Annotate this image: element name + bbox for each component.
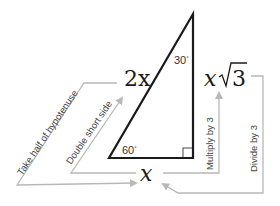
- arrow-label-multiply: Multiply by 3: [204, 117, 215, 170]
- right-angle-marker: [183, 148, 193, 158]
- svg-text:x: x: [204, 66, 217, 91]
- arrow-label-double-short: Double short side: [64, 99, 114, 166]
- angle-60-label: 60°: [122, 144, 137, 156]
- long-leg-label: x 3: [204, 63, 247, 91]
- arrow-label-divide: Divide by 3: [248, 125, 259, 172]
- arrow-multiply-by-root3: Multiply by 3: [163, 93, 219, 173]
- angle-30-label: 30°: [174, 54, 189, 66]
- triangle-diagram: 30° 60° 2x x x 3 Take half of hypotenuse…: [0, 0, 280, 206]
- hypotenuse-label: 2x: [124, 66, 151, 91]
- right-triangle: [109, 14, 193, 158]
- arrow-take-half-hypotenuse: Take half of hypotenuse: [15, 83, 136, 185]
- radical-sign-icon: [202, 110, 212, 116]
- svg-text:3: 3: [232, 66, 246, 91]
- short-leg-label: x: [140, 161, 153, 186]
- diagram-canvas: 30° 60° 2x x x 3 Take half of hypotenuse…: [0, 0, 280, 206]
- arrow-double-short-side: Double short side: [64, 98, 136, 173]
